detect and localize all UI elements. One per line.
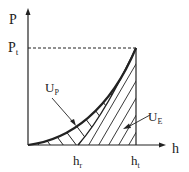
ue-leader-line (128, 115, 150, 127)
up-label: UP (45, 80, 59, 97)
elastic-energy-hatch (60, 40, 189, 160)
x-axis-label: h (172, 141, 179, 156)
x-axis-arrow-icon (159, 143, 166, 148)
loading-curve (28, 48, 136, 145)
ht-label: ht (131, 153, 141, 170)
ue-leader-arrow-icon (123, 124, 131, 130)
y-axis-label: P (9, 12, 17, 27)
up-leader-line (52, 98, 73, 122)
hr-label: hr (73, 153, 83, 170)
ue-label: UE (148, 109, 162, 126)
load-displacement-diagram: P Pt UP UE h hr ht (0, 0, 189, 172)
y-axis-arrow-icon (26, 8, 31, 15)
pt-label: Pt (8, 40, 19, 57)
